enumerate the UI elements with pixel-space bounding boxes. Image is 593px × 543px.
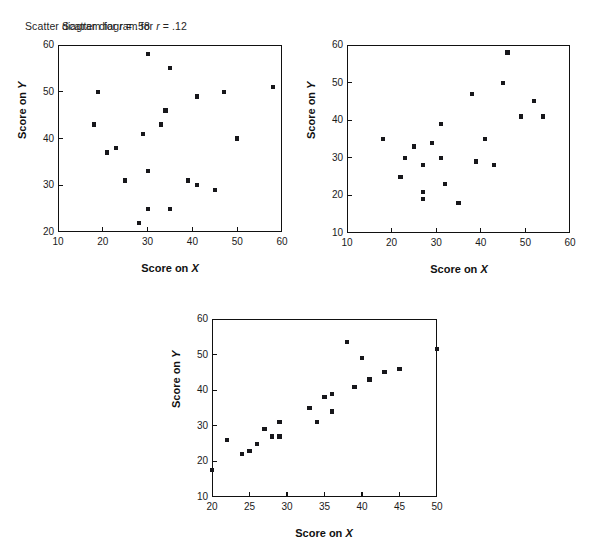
- x-tick-mark: [324, 492, 325, 497]
- data-point: [186, 178, 190, 182]
- x-tick-label: 20: [87, 236, 119, 247]
- y-tick-label: 30: [186, 420, 208, 431]
- data-point: [235, 136, 239, 140]
- data-point: [225, 438, 229, 442]
- plot-frame-r92: [212, 319, 437, 497]
- x-tick-label: 40: [465, 237, 497, 248]
- data-point: [146, 169, 150, 173]
- x-tick-label: 20: [196, 501, 228, 512]
- data-point: [352, 385, 356, 389]
- data-point: [96, 90, 100, 94]
- data-point: [403, 156, 407, 160]
- y-tick-mark: [347, 195, 352, 196]
- x-variable-symbol: X: [191, 262, 198, 274]
- y-tick-mark: [212, 425, 217, 426]
- data-point: [168, 207, 172, 211]
- y-axis-label-r12: Score on Y: [16, 82, 28, 139]
- x-tick-mark: [361, 492, 362, 497]
- data-point: [430, 141, 434, 145]
- x-variable-symbol: X: [345, 527, 352, 539]
- x-tick-mark: [399, 492, 400, 497]
- data-point: [360, 356, 364, 360]
- data-point: [474, 159, 478, 163]
- y-variable-symbol: Y: [16, 82, 28, 89]
- data-point: [213, 188, 217, 192]
- data-point: [381, 137, 385, 141]
- y-tick-mark: [347, 82, 352, 83]
- data-point: [421, 190, 425, 194]
- x-tick-label: 30: [271, 501, 303, 512]
- data-point: [421, 197, 425, 201]
- data-point: [105, 150, 109, 154]
- data-point: [397, 367, 401, 371]
- y-tick-label: 10: [321, 227, 343, 238]
- y-tick-label: 10: [186, 491, 208, 502]
- data-point: [367, 377, 371, 381]
- data-point: [307, 406, 311, 410]
- data-point: [443, 182, 447, 186]
- data-point: [240, 452, 244, 456]
- y-tick-mark: [58, 91, 63, 92]
- y-axis-label-r92: Score on Y: [170, 351, 182, 408]
- x-tick-mark: [249, 492, 250, 497]
- data-point: [146, 52, 150, 56]
- data-point: [195, 183, 199, 187]
- x-tick-mark: [102, 227, 103, 232]
- y-tick-label: 40: [32, 133, 54, 144]
- y-tick-label: 60: [321, 39, 343, 50]
- data-point: [345, 340, 349, 344]
- x-tick-label: 25: [234, 501, 266, 512]
- data-point: [322, 395, 326, 399]
- data-point: [492, 163, 496, 167]
- data-point: [159, 122, 163, 126]
- data-point: [141, 132, 145, 136]
- x-tick-mark: [525, 228, 526, 233]
- data-point: [163, 108, 167, 112]
- x-tick-label: 60: [554, 237, 586, 248]
- y-tick-label: 40: [321, 114, 343, 125]
- y-tick-label: 60: [32, 39, 54, 50]
- x-tick-mark: [391, 228, 392, 233]
- data-point: [222, 90, 226, 94]
- y-tick-mark: [347, 157, 352, 158]
- y-tick-label: 50: [32, 86, 54, 97]
- x-tick-label: 30: [132, 236, 164, 247]
- data-point: [501, 81, 505, 85]
- y-tick-label: 40: [186, 384, 208, 395]
- x-tick-mark: [436, 228, 437, 233]
- x-tick-mark: [237, 227, 238, 232]
- data-point: [146, 207, 150, 211]
- x-tick-label: 50: [509, 237, 541, 248]
- data-point: [271, 85, 275, 89]
- data-point: [439, 156, 443, 160]
- y-tick-label: 50: [321, 77, 343, 88]
- data-point: [277, 420, 281, 424]
- x-axis-label-r58: Score on X: [399, 263, 519, 275]
- data-point: [92, 122, 96, 126]
- x-tick-label: 60: [266, 236, 298, 247]
- data-point: [541, 114, 545, 118]
- data-point: [315, 420, 319, 424]
- data-point: [262, 427, 266, 431]
- data-point: [470, 92, 474, 96]
- x-tick-mark: [147, 227, 148, 232]
- y-tick-label: 20: [186, 455, 208, 466]
- y-tick-label: 30: [321, 152, 343, 163]
- y-tick-mark: [58, 185, 63, 186]
- data-point: [330, 409, 334, 413]
- data-point: [168, 66, 172, 70]
- x-tick-label: 10: [42, 236, 74, 247]
- x-tick-mark: [480, 228, 481, 233]
- y-tick-label: 20: [321, 189, 343, 200]
- data-point: [255, 442, 259, 446]
- y-tick-label: 60: [186, 313, 208, 324]
- data-point: [412, 144, 416, 148]
- y-tick-mark: [212, 390, 217, 391]
- data-point: [330, 392, 334, 396]
- x-tick-mark: [286, 492, 287, 497]
- data-point: [519, 114, 523, 118]
- data-point: [456, 201, 460, 205]
- x-tick-mark: [192, 227, 193, 232]
- x-tick-label: 10: [331, 237, 363, 248]
- data-point: [421, 163, 425, 167]
